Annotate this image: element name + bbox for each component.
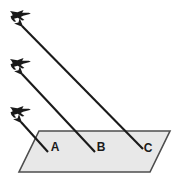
- diagram-container: A B C: [0, 0, 178, 187]
- point-label-c: C: [144, 141, 153, 155]
- point-label-a: A: [51, 140, 60, 154]
- point-label-b: B: [97, 140, 106, 154]
- aircraft-middle-icon: [10, 57, 31, 70]
- aircraft-top-icon: [10, 9, 31, 22]
- aircraft-bottom-icon: [10, 105, 31, 118]
- line-of-sight-diagram: A B C: [0, 0, 178, 187]
